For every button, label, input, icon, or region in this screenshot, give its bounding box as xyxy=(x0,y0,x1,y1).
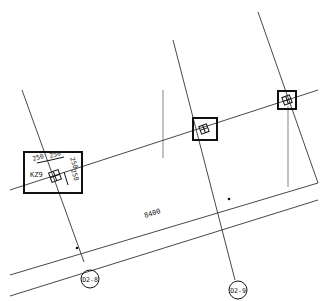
grid-line xyxy=(10,90,318,190)
axis-label-d2-9: D2-9 xyxy=(230,287,246,295)
span-dimension: 8400 xyxy=(143,207,161,220)
dim-4: 250 xyxy=(69,168,80,182)
dimension-line-lower xyxy=(10,200,318,296)
axis-label-d2-8: D2-8 xyxy=(82,276,98,284)
dim-tick xyxy=(228,198,231,201)
dim-3: 250 xyxy=(68,156,79,170)
dim-tick xyxy=(76,247,79,250)
cad-drawing: 8400 250 250 250 250 KZ9 D2-8 D2-9 xyxy=(0,0,326,301)
dimension-line-upper xyxy=(10,183,318,275)
axis-line-d2-9 xyxy=(173,40,235,280)
column-label: KZ9 xyxy=(30,171,43,179)
